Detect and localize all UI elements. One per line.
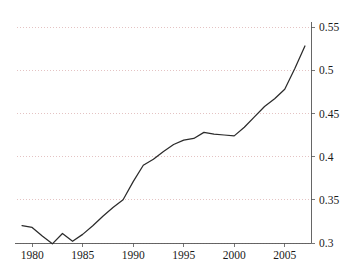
axis-lines bbox=[15, 22, 311, 243]
x-axis-label-2000: 2000 bbox=[223, 249, 246, 261]
x-axis-label-1990: 1990 bbox=[122, 249, 145, 261]
series-line-value bbox=[22, 46, 305, 244]
y-axis-label-0.55: 0.55 bbox=[319, 21, 339, 33]
y-axis-label-0.45: 0.45 bbox=[319, 108, 339, 120]
x-axis-label-2005: 2005 bbox=[273, 249, 296, 261]
data-series bbox=[22, 46, 305, 244]
chart-canvas: 0.30.350.40.450.50.55 198019851990199520… bbox=[0, 0, 353, 276]
y-axis-label-0.5: 0.5 bbox=[319, 64, 334, 76]
gridlines bbox=[17, 27, 310, 243]
x-axis-label-1985: 1985 bbox=[71, 249, 94, 261]
x-axis-tick-labels: 198019851990199520002005 bbox=[21, 249, 297, 261]
y-axis-tick-labels: 0.30.350.40.450.50.55 bbox=[319, 21, 339, 249]
y-axis-label-0.3: 0.3 bbox=[319, 237, 334, 249]
x-axis-label-1995: 1995 bbox=[172, 249, 195, 261]
y-axis-label-0.4: 0.4 bbox=[319, 151, 334, 163]
line-chart: 0.30.350.40.450.50.55 198019851990199520… bbox=[0, 0, 353, 276]
tick-marks bbox=[32, 27, 315, 247]
y-axis-label-0.35: 0.35 bbox=[319, 194, 339, 206]
x-axis-label-1980: 1980 bbox=[21, 249, 44, 261]
